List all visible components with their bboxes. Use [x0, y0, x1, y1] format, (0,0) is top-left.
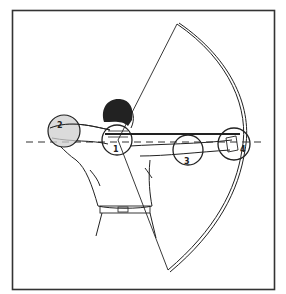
- checkpoint-1-label: 1: [113, 145, 119, 154]
- checkpoint-2-label: 2: [57, 121, 63, 130]
- checkpoint-4-label: 4: [240, 145, 246, 154]
- archery-form-diagram: 2 1 3 4: [0, 0, 286, 294]
- figure-frame: [13, 11, 275, 290]
- checkpoint-3-label: 3: [184, 157, 190, 166]
